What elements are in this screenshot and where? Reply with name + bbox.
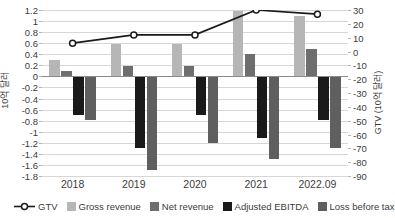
bar-loss-before-tax bbox=[330, 76, 341, 147]
bars-group bbox=[42, 10, 348, 176]
legend-swatch-icon bbox=[67, 202, 76, 211]
y-axis-left-tick-label: 0.4 bbox=[25, 49, 38, 60]
bar-adjusted-ebitda bbox=[318, 76, 329, 120]
legend-item-adjusted-ebitda[interactable]: Adjusted EBITDA bbox=[223, 201, 309, 212]
y-axis-right-tick-mark bbox=[348, 38, 351, 39]
x-axis-tick-label: 2020 bbox=[183, 178, 206, 190]
y-axis-right-tick-label: -80 bbox=[353, 157, 367, 168]
bar-net-revenue bbox=[123, 66, 134, 77]
y-axis-right-tick-label: -50 bbox=[353, 115, 367, 126]
legend-item-loss-before-tax[interactable]: Loss before tax bbox=[318, 201, 395, 212]
y-axis-left-tick-mark bbox=[39, 176, 42, 177]
y-axis-right-tick-mark bbox=[348, 93, 351, 94]
y-axis-left-tick-label: 0.8 bbox=[25, 27, 38, 38]
y-axis-right-tick-label: -90 bbox=[353, 171, 367, 182]
y-axis-left-tick-label: 0.6 bbox=[25, 38, 38, 49]
y-axis-right-tick-label: -20 bbox=[353, 74, 367, 85]
legend-label: Net revenue bbox=[162, 201, 214, 212]
legend-label: Loss before tax bbox=[330, 201, 395, 212]
x-axis-tick-label: 2022.09 bbox=[298, 178, 336, 190]
bar-loss-before-tax bbox=[147, 76, 158, 170]
y-axis-right-tick-label: -60 bbox=[353, 129, 367, 140]
x-axis-tick-label: 2018 bbox=[61, 178, 84, 190]
x-axis-tick-label: 2021 bbox=[245, 178, 268, 190]
y-axis-left-tick-label: 0.2 bbox=[25, 60, 38, 71]
y-axis-right-title: GTV (10억 달러) bbox=[371, 48, 384, 158]
y-axis-left-tick-label: 1.2 bbox=[25, 5, 38, 16]
bar-net-revenue bbox=[184, 66, 195, 77]
y-axis-left-tick-label: -1.6 bbox=[22, 159, 38, 170]
legend-label: Adjusted EBITDA bbox=[235, 201, 309, 212]
legend-item-gtv[interactable]: GTV bbox=[14, 201, 58, 212]
y-axis-right-tick-label: -70 bbox=[353, 143, 367, 154]
legend-swatch-icon bbox=[223, 202, 232, 211]
bar-adjusted-ebitda bbox=[135, 76, 146, 147]
y-axis-left-tick-label: 0 bbox=[33, 71, 38, 82]
x-axis-labels: 20182019202020212022.09 bbox=[42, 178, 348, 194]
y-axis-left-tick-label: -1.4 bbox=[22, 148, 38, 159]
y-axis-left-tick-label: -1.8 bbox=[22, 171, 38, 182]
bar-loss-before-tax bbox=[208, 76, 219, 143]
bar-adjusted-ebitda bbox=[73, 76, 84, 114]
chart-legend: GTVGross revenueNet revenueAdjusted EBIT… bbox=[14, 199, 374, 213]
bar-net-revenue bbox=[306, 49, 317, 76]
y-axis-left-tick-label: -1.2 bbox=[22, 137, 38, 148]
bar-loss-before-tax bbox=[269, 76, 280, 158]
y-axis-right-tick-label: 30 bbox=[353, 5, 364, 16]
y-axis-right-tick-mark bbox=[348, 176, 351, 177]
bar-gross-revenue bbox=[111, 44, 122, 77]
bar-loss-before-tax bbox=[85, 76, 96, 120]
y-axis-right-tick-mark bbox=[348, 10, 351, 11]
bar-net-revenue bbox=[245, 54, 256, 76]
legend-item-net-revenue[interactable]: Net revenue bbox=[150, 201, 214, 212]
bar-gross-revenue bbox=[233, 11, 244, 77]
y-axis-right-tick-mark bbox=[348, 107, 351, 108]
zero-axis-line bbox=[42, 76, 348, 77]
y-axis-right-tick-mark bbox=[348, 162, 351, 163]
y-axis-right-tick-label: 20 bbox=[353, 18, 364, 29]
legend-swatch-icon bbox=[150, 202, 159, 211]
y-axis-right-tick-mark bbox=[348, 52, 351, 53]
y-axis-right-tick-label: -30 bbox=[353, 88, 367, 99]
y-axis-left-tick-label: -0.4 bbox=[22, 93, 38, 104]
y-axis-right-tick-mark bbox=[348, 79, 351, 80]
legend-item-gross-revenue[interactable]: Gross revenue bbox=[67, 201, 141, 212]
y-axis-right-tick-mark bbox=[348, 135, 351, 136]
y-axis-left-title: 10억 달러 bbox=[0, 61, 11, 121]
bar-gross-revenue bbox=[49, 60, 60, 76]
y-axis-right-tick-label: -40 bbox=[353, 101, 367, 112]
x-axis-tick-label: 2019 bbox=[122, 178, 145, 190]
legend-swatch-icon bbox=[318, 202, 327, 211]
legend-label: Gross revenue bbox=[79, 201, 141, 212]
y-axis-left-tick-label: -0.6 bbox=[22, 104, 38, 115]
bar-gross-revenue bbox=[172, 44, 183, 77]
gridline bbox=[42, 176, 348, 177]
y-axis-left-tick-label: -0.8 bbox=[22, 115, 38, 126]
y-axis-left-tick-label: -0.2 bbox=[22, 82, 38, 93]
y-axis-right-tick-label: 0 bbox=[353, 46, 358, 57]
y-axis-right-tick-mark bbox=[348, 121, 351, 122]
plot-area: 1.210.80.60.40.20-0.2-0.4-0.6-0.8-1-1.2-… bbox=[42, 10, 348, 176]
y-axis-right-tick-mark bbox=[348, 65, 351, 66]
bar-adjusted-ebitda bbox=[257, 76, 268, 137]
y-axis-right-tick-label: 10 bbox=[353, 32, 364, 43]
y-axis-left-tick-label: -1 bbox=[30, 126, 38, 137]
legend-label: GTV bbox=[38, 201, 58, 212]
bar-adjusted-ebitda bbox=[196, 76, 207, 114]
y-axis-left-tick-label: 1 bbox=[33, 16, 38, 27]
gtv-line-marker-icon bbox=[14, 202, 35, 211]
bar-gross-revenue bbox=[294, 16, 305, 76]
y-axis-right-tick-label: -10 bbox=[353, 60, 367, 71]
y-axis-right-tick-mark bbox=[348, 24, 351, 25]
y-axis-right-tick-mark bbox=[348, 148, 351, 149]
